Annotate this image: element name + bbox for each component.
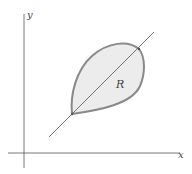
intersection-point-lower: [71, 113, 73, 115]
region-diagram: y x R: [0, 0, 192, 174]
y-axis-label: y: [27, 10, 33, 20]
x-axis-label: x: [178, 150, 184, 160]
region-label: R: [116, 79, 124, 90]
intersection-point-upper: [138, 48, 140, 50]
